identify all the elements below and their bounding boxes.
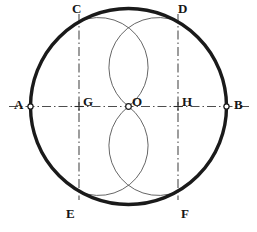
marker-point-b xyxy=(224,104,229,109)
point-label-e: E xyxy=(66,207,75,220)
point-label-f: F xyxy=(181,207,189,220)
point-label-a: A xyxy=(14,98,23,111)
point-label-g: G xyxy=(83,95,93,108)
geometry-canvas xyxy=(0,0,257,232)
point-label-b: B xyxy=(234,98,243,111)
geometry-diagram: A B C D E F G H O xyxy=(0,0,257,232)
point-label-c: C xyxy=(72,2,81,15)
marker-point-o xyxy=(126,104,132,110)
point-label-h: H xyxy=(182,95,192,108)
marker-point-a xyxy=(28,104,33,109)
point-label-o: O xyxy=(132,95,142,108)
point-label-d: D xyxy=(178,2,187,15)
